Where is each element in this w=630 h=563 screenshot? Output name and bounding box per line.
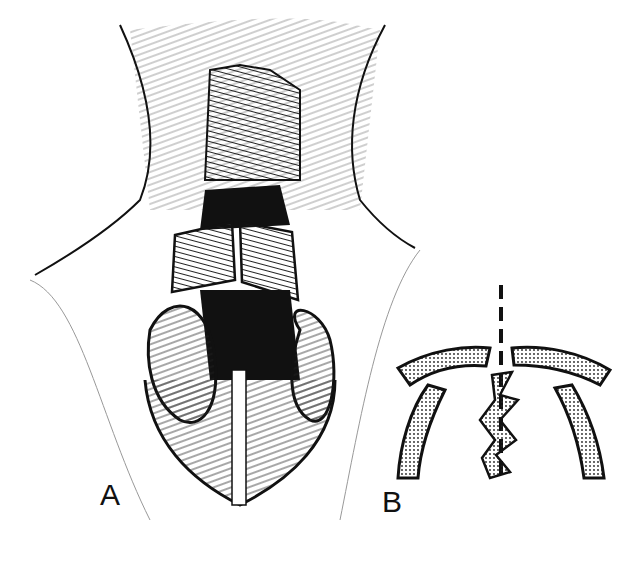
panel-a-drawing	[30, 18, 420, 520]
illustration	[0, 0, 630, 563]
panel-a-label: A	[100, 478, 120, 512]
panel-b-label: B	[382, 485, 402, 519]
panel-b-diagram	[398, 285, 610, 482]
